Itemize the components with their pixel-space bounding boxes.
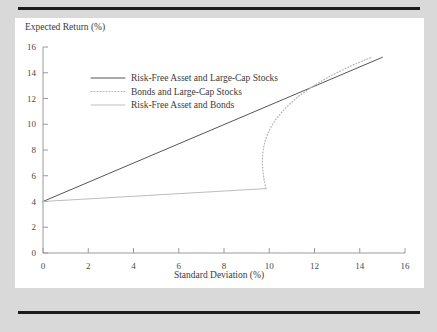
series-line-2 [43, 189, 266, 202]
x-axis-title: Standard Deviation (%) [174, 270, 264, 281]
x-axis-tick-label: 12 [310, 261, 319, 271]
y-axis-tick-label: 12 [27, 94, 36, 104]
y-axis-tick-label: 4 [32, 197, 37, 207]
y-axis-tick-label: 10 [27, 119, 37, 129]
x-axis-tick-label: 4 [131, 261, 136, 271]
y-axis-tick-label: 8 [32, 145, 37, 155]
x-axis-tick-label: 0 [41, 261, 46, 271]
bottom-rule-divider [18, 311, 420, 314]
x-axis-tick-label: 16 [401, 261, 411, 271]
legend-label-1: Bonds and Large-Cap Stocks [131, 87, 242, 97]
x-axis-tick-label: 14 [355, 261, 365, 271]
legend-label-2: Risk-Free Asset and Bonds [131, 100, 234, 110]
series-line-1 [262, 57, 371, 188]
x-axis-tick-label: 2 [86, 261, 91, 271]
chart-svg: 02468101214160246810121416 Risk-Free Ass… [15, 18, 424, 288]
y-axis-tick-label: 2 [32, 222, 37, 232]
top-rule-divider [18, 7, 420, 10]
x-axis-tick-label: 10 [265, 261, 275, 271]
y-axis-tick-label: 0 [32, 248, 37, 258]
legend-label-0: Risk-Free Asset and Large-Cap Stocks [131, 73, 278, 83]
y-axis-tick-label: 6 [32, 171, 37, 181]
chart-legend: Risk-Free Asset and Large-Cap StocksBond… [91, 73, 278, 110]
chart-panel: 02468101214160246810121416 Risk-Free Ass… [15, 18, 424, 288]
y-axis-title: Expected Return (%) [25, 22, 105, 33]
y-axis-tick-label: 14 [27, 68, 37, 78]
figure-frame: 02468101214160246810121416 Risk-Free Ass… [0, 0, 437, 332]
y-axis-tick-label: 16 [27, 42, 37, 52]
